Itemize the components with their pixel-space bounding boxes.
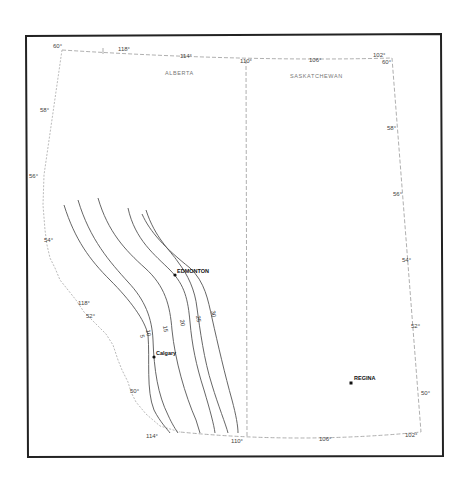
tick-label: 58° (40, 107, 50, 113)
contour-label-20: 20 (179, 319, 186, 327)
tick-label: 118° (78, 300, 91, 306)
tick-label: 58° (387, 125, 397, 131)
contour-label-15: 15 (162, 325, 169, 333)
province-label-alberta: ALBERTA (165, 70, 194, 76)
tick-label: 102° (405, 432, 418, 438)
contour-label-10: 10 (145, 329, 152, 337)
city-edmonton: EDMONTON (173, 268, 209, 277)
contour-25 (146, 210, 228, 433)
tick-label: 52° (86, 313, 96, 319)
contour-5 (64, 205, 170, 433)
contour-label-5: 5 (139, 334, 146, 339)
tick-label: 118° (118, 46, 131, 52)
contour-label-30: 30 (210, 310, 217, 318)
tick-label: 52° (411, 323, 421, 329)
tick-label: 50° (421, 390, 431, 396)
map-frame (26, 34, 443, 457)
tick-label: 56° (393, 191, 403, 197)
contour-label-25: 25 (195, 315, 202, 323)
tick-label: 60° (53, 43, 63, 49)
contour-15 (98, 198, 200, 433)
tick-label: 54° (44, 237, 54, 243)
graticule-bottom-labels: 114° 110° 106° 102° (146, 432, 418, 444)
graticule-top-labels: 60° 118° 114° 110° 106° 102° 60° (53, 43, 392, 65)
province-label-saskatchewan: SASKATCHEWAN (290, 73, 343, 79)
tick-label: 106° (319, 436, 332, 442)
tick-label: 102° (373, 52, 386, 58)
tick-label: 56° (29, 173, 39, 179)
tick-label: 60° (382, 59, 392, 65)
city-regina: REGINA (350, 375, 376, 385)
city-label-edmonton: EDMONTON (177, 268, 209, 274)
alberta-saskatchewan-border (246, 60, 247, 436)
tick-label: 110° (231, 438, 244, 444)
city-label-regina: REGINA (354, 375, 375, 381)
map-canvas: 5 10 15 20 25 30 ALBERTA SASKATCHEWAN ED… (0, 0, 468, 479)
city-calgary: Calgary (152, 350, 177, 359)
tick-label: 50° (130, 388, 140, 394)
graticule-left-labels: 58° 56° 54° 118° 52° 50° (29, 107, 140, 394)
city-label-calgary: Calgary (156, 350, 177, 356)
tick-label: 114° (180, 53, 193, 59)
graticule-right-labels: 58° 56° 54° 52° 50° (387, 125, 431, 396)
alberta-west-boundary (43, 50, 180, 432)
tick-label: 110° (240, 58, 253, 64)
tick-label: 114° (146, 433, 159, 439)
tick-label: 54° (402, 257, 412, 263)
city-marker-icon (350, 382, 353, 385)
tick-label: 106° (309, 57, 322, 63)
